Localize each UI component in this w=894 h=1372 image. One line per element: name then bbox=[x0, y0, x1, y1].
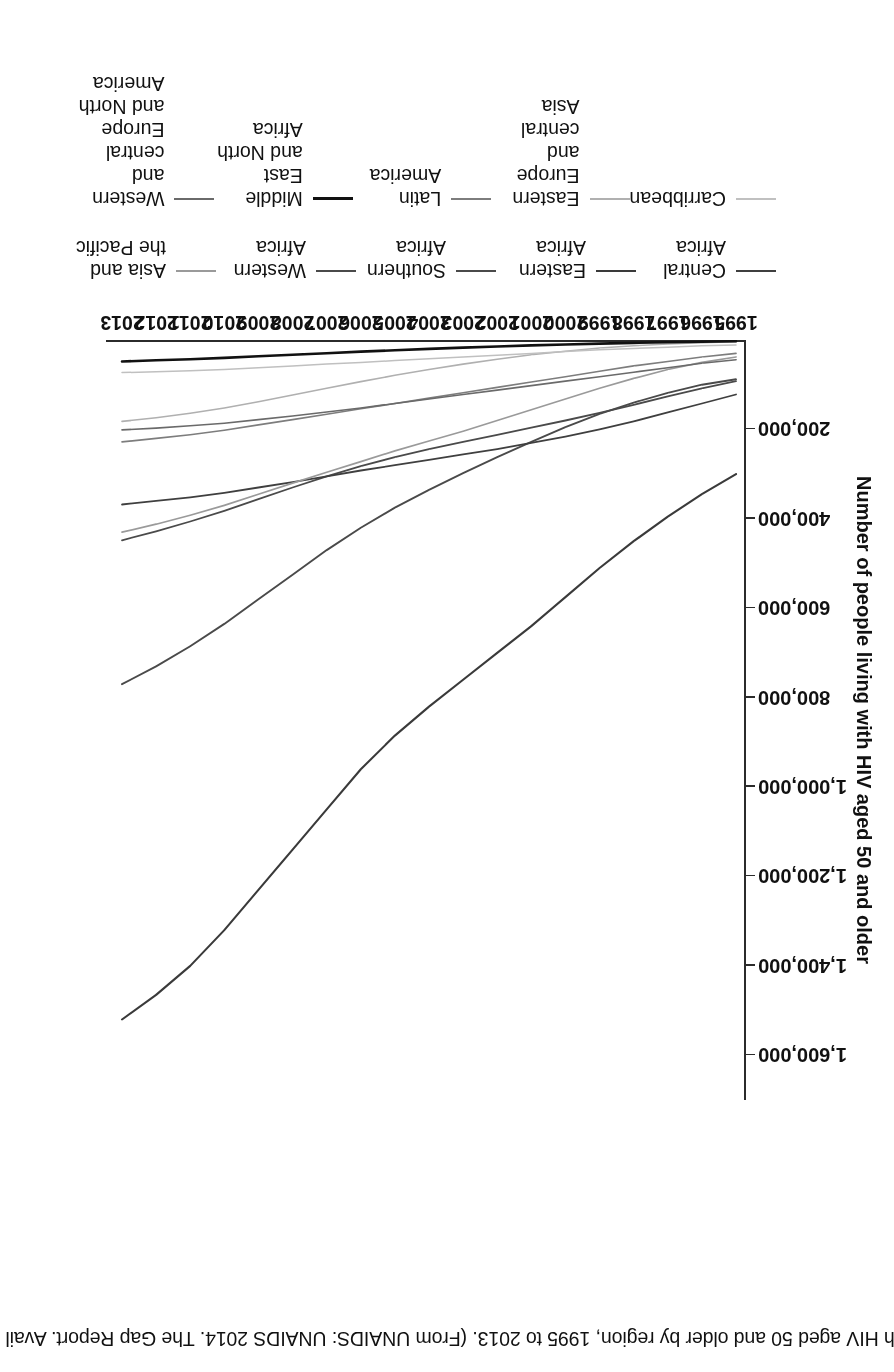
y-axis-tick-label: 800,000 bbox=[758, 686, 830, 709]
y-axis-tick-label: 1,600,000 bbox=[758, 1044, 847, 1067]
y-axis-tick-label: 200,000 bbox=[758, 418, 830, 441]
y-axis-tick-label: 400,000 bbox=[758, 507, 830, 530]
legend-swatch-icon bbox=[174, 198, 214, 200]
legend-label: Latin America bbox=[353, 164, 441, 210]
legend-swatch-icon bbox=[316, 270, 356, 272]
legend-item[interactable]: Eastern Europe and central Asia bbox=[491, 95, 629, 210]
legend-swatch-icon bbox=[313, 197, 353, 200]
rotated-figure-container: Estimated number of people living with H… bbox=[0, 0, 894, 1372]
chart-line-eastern-africa bbox=[122, 474, 736, 1019]
y-axis-tick bbox=[746, 517, 755, 519]
legend-label: Eastern Europe and central Asia bbox=[491, 95, 579, 210]
legend-label: Asia and the Pacific bbox=[76, 236, 166, 282]
x-axis-tick-label: 2013 bbox=[100, 311, 143, 334]
legend-item[interactable]: Middle East and North Africa bbox=[214, 118, 352, 210]
legend-swatch-icon bbox=[596, 270, 636, 272]
y-axis-tick bbox=[746, 964, 755, 966]
chart-line-asia-and-the-pacific bbox=[122, 357, 736, 532]
legend-item[interactable]: Southern Africa bbox=[356, 236, 496, 282]
y-axis-tick bbox=[746, 785, 755, 787]
figure-caption: Estimated number of people living with H… bbox=[0, 1326, 894, 1352]
figure: Estimated number of people living with H… bbox=[0, 0, 894, 1372]
chart-plot-area: Number of people living with HIV aged 50… bbox=[106, 340, 746, 1100]
legend-row: Central AfricaEastern AfricaSouthern Afr… bbox=[76, 236, 776, 282]
y-axis-tick-label: 1,000,000 bbox=[758, 776, 847, 799]
legend-item[interactable]: Central Africa bbox=[636, 236, 776, 282]
legend-swatch-icon bbox=[736, 198, 776, 200]
y-axis-title: Number of people living with HIV aged 50… bbox=[853, 476, 876, 964]
legend-swatch-icon bbox=[590, 198, 630, 200]
legend-swatch-icon bbox=[451, 198, 491, 200]
legend-label: Carribbean bbox=[630, 187, 726, 210]
legend-item[interactable]: Latin America bbox=[353, 164, 491, 210]
legend-label: Southern Africa bbox=[356, 236, 446, 282]
y-axis-tick-label: 1,400,000 bbox=[758, 954, 847, 977]
y-axis-tick bbox=[746, 696, 755, 698]
y-axis-tick bbox=[746, 428, 755, 430]
y-axis-tick bbox=[746, 607, 755, 609]
y-axis-tick-label: 1,200,000 bbox=[758, 865, 847, 888]
chart-line-eastern-europe-and-central-asia bbox=[122, 342, 736, 422]
legend-label: Western and central Europe and North Ame… bbox=[76, 72, 164, 210]
chart-legend: Central AfricaEastern AfricaSouthern Afr… bbox=[76, 46, 776, 282]
legend-label: Central Africa bbox=[636, 236, 726, 282]
legend-swatch-icon bbox=[736, 270, 776, 272]
legend-label: Western Africa bbox=[216, 236, 306, 282]
legend-item[interactable]: Eastern Africa bbox=[496, 236, 636, 282]
chart-line-latin-america bbox=[122, 353, 736, 442]
legend-label: Middle East and North Africa bbox=[214, 118, 302, 210]
y-axis-tick bbox=[746, 1054, 755, 1056]
legend-item[interactable]: Western Africa bbox=[216, 236, 356, 282]
legend-label: Eastern Africa bbox=[496, 236, 586, 282]
chart-series-svg bbox=[106, 340, 746, 1100]
legend-swatch-icon bbox=[456, 270, 496, 272]
chart-line-southern-africa bbox=[122, 379, 736, 684]
legend-item[interactable]: Western and central Europe and North Ame… bbox=[76, 72, 214, 210]
y-axis-tick bbox=[746, 875, 755, 877]
y-axis-tick-label: 600,000 bbox=[758, 597, 830, 620]
legend-item[interactable]: Carribbean bbox=[630, 187, 776, 210]
legend-item[interactable]: Asia and the Pacific bbox=[76, 236, 216, 282]
legend-swatch-icon bbox=[176, 270, 216, 272]
legend-row: CarribbeanEastern Europe and central Asi… bbox=[76, 72, 776, 210]
